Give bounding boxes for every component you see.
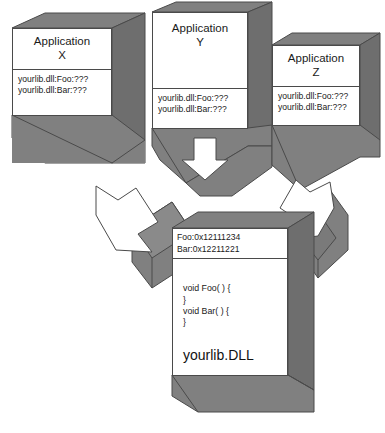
app-y-imports: yourlib.dll:Foo:??? yourlib.dll:Bar:??? [153,89,247,120]
app-y-panel[interactable]: Application Y yourlib.dll:Foo:??? yourli… [152,12,248,129]
diagram-canvas: Application X yourlib.dll:Foo:??? yourli… [0,0,385,433]
app-y-title: Application Y [153,13,247,56]
app-x-panel[interactable]: Application X yourlib.dll:Foo:??? yourli… [12,28,112,116]
app-x-imports: yourlib.dll:Foo:??? yourlib.dll:Bar:??? [13,70,111,101]
app-y-side-face [248,2,272,146]
dll-source-code: void Foo( ) { } void Bar( ) { } [173,259,287,329]
app-x-title: Application X [13,29,111,69]
app-z-imports: yourlib.dll:Foo:??? yourlib.dll:Bar:??? [273,87,359,118]
dll-filename-label: yourlib.DLL [173,329,287,363]
dll-side-face [288,212,314,390]
dll-panel[interactable]: Foo:0x12111234 Bar:0x12211221 void Foo( … [172,228,288,376]
app-z-bottom-face [272,125,380,190]
dll-export-addresses: Foo:0x12111234 Bar:0x12211221 [173,229,287,258]
dll-bottom-face [172,375,314,412]
app-z-title: Application Z [273,46,359,86]
app-z-panel[interactable]: Application Z yourlib.dll:Foo:??? yourli… [272,45,360,126]
